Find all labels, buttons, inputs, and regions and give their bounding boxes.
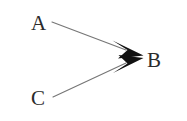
edge-a-to-b-line [52,22,126,50]
diagram-canvas: A C B [0,0,187,121]
node-label-c: C [31,88,45,109]
edge-a-to-b-arrowhead-icon [113,41,144,59]
node-label-a: A [31,13,46,34]
edge-a-to-b [52,22,144,59]
node-label-b: B [147,50,161,71]
edge-c-to-b [53,55,144,97]
edge-c-to-b-line [53,63,126,97]
edge-c-to-b-arrowhead-icon [113,55,144,73]
